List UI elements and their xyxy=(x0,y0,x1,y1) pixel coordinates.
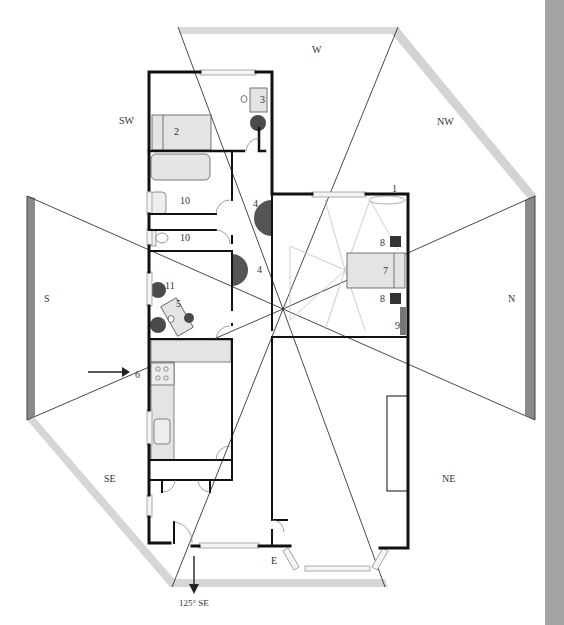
marker-1: 1 xyxy=(392,184,397,194)
bathtub xyxy=(151,154,210,180)
entrance-bearing-label: 125° SE xyxy=(179,599,209,608)
band-north xyxy=(525,196,535,420)
direction-nw-label: NW xyxy=(437,117,454,127)
window-bay-mid xyxy=(305,566,370,571)
direction-sw-label: SW xyxy=(119,116,134,126)
marker-7: 7 xyxy=(383,266,388,276)
window-entry xyxy=(199,543,259,548)
marker-9: 9 xyxy=(395,321,400,331)
window-bath xyxy=(147,192,152,214)
plant-5 xyxy=(184,313,194,323)
direction-n-label: N xyxy=(508,294,515,304)
marker-4a: 4 xyxy=(253,199,258,209)
nightstand-8b xyxy=(390,293,401,304)
floor-plan xyxy=(0,0,564,625)
band-south xyxy=(27,196,35,420)
bearing-arrow-head xyxy=(189,584,199,594)
window-bay-left xyxy=(283,548,299,570)
direction-s-label: S xyxy=(44,294,50,304)
furniture xyxy=(150,88,408,491)
direction-se-label: SE xyxy=(104,474,116,484)
bed-7 xyxy=(347,253,405,288)
nightstand-8a xyxy=(390,236,401,247)
window-wc xyxy=(147,229,152,245)
kitchen-sink xyxy=(154,419,170,444)
item-9 xyxy=(400,307,406,335)
half-round-plants xyxy=(232,200,272,286)
marker-5: 5 xyxy=(176,299,181,309)
bed-2 xyxy=(152,115,211,150)
marker-10a: 10 xyxy=(180,196,190,206)
window-study xyxy=(147,272,152,306)
marker-8b: 8 xyxy=(380,294,385,304)
marker-8a: 8 xyxy=(380,238,385,248)
plant-4b xyxy=(232,254,248,286)
counter-top xyxy=(151,340,231,362)
window-bedroom xyxy=(312,192,366,197)
band-east xyxy=(170,579,388,587)
marker-4b: 4 xyxy=(257,265,262,275)
chair xyxy=(241,96,247,103)
band-northwest xyxy=(392,27,537,200)
plant-11b xyxy=(150,317,166,333)
marker-3: 3 xyxy=(260,95,265,105)
direction-ne-label: NE xyxy=(442,474,455,484)
window-top xyxy=(200,70,256,75)
sideboard xyxy=(387,396,408,491)
direction-e-label: E xyxy=(271,556,277,566)
marker-2: 2 xyxy=(174,127,179,137)
band-west xyxy=(178,27,398,34)
marker-11: 11 xyxy=(165,281,175,291)
chair-5 xyxy=(168,316,174,323)
marker-6: 6 xyxy=(135,370,140,380)
direction-w-label: W xyxy=(312,45,321,55)
mirror-1 xyxy=(369,196,405,204)
stove xyxy=(151,363,174,385)
window-hall xyxy=(147,495,152,517)
window-kitchen xyxy=(147,410,152,445)
marker-10b: 10 xyxy=(180,233,190,243)
toilet xyxy=(156,233,168,243)
